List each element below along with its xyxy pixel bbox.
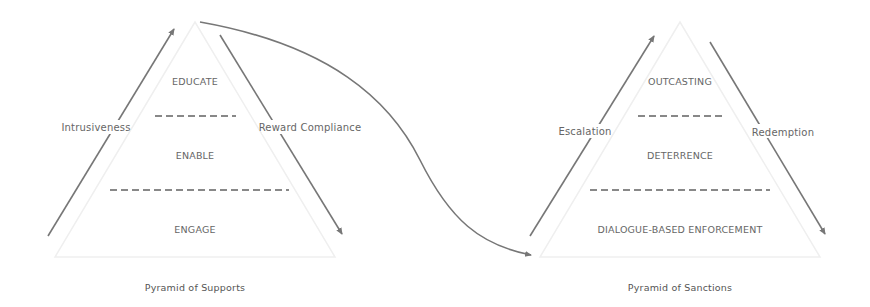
pyramid-of-sanctions-caption: Pyramid of Sanctions — [628, 282, 732, 293]
layer-dialogue-based-enforcement: DIALOGUE-BASED ENFORCEMENT — [598, 224, 763, 235]
right-pyramid-outline — [540, 22, 820, 257]
layer-engage: ENGAGE — [174, 224, 215, 235]
transition-curve-arrow — [200, 22, 531, 255]
redemption-label: Redemption — [752, 127, 814, 138]
layer-deterrence: DETERRENCE — [647, 150, 713, 161]
layer-educate: EDUCATE — [172, 76, 218, 87]
layer-enable: ENABLE — [176, 150, 215, 161]
intrusiveness-label: Intrusiveness — [61, 122, 130, 133]
pyramids-diagram — [0, 0, 870, 307]
layer-outcasting: OUTCASTING — [648, 76, 712, 87]
left-pyramid-outline — [55, 22, 335, 257]
reward-compliance-arrow — [220, 35, 342, 234]
escalation-label: Escalation — [558, 126, 611, 137]
reward-compliance-label: Reward Compliance — [259, 122, 362, 133]
pyramid-of-supports-caption: Pyramid of Supports — [145, 282, 246, 293]
